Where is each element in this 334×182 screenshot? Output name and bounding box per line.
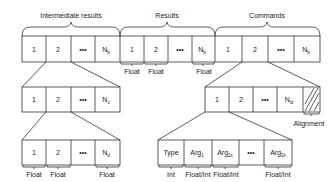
cell-label: 2 — [154, 46, 158, 53]
cell-label-type: Type — [163, 149, 178, 157]
cell-label-n: Nd — [102, 149, 110, 158]
type-label: Float — [124, 68, 140, 75]
ellipsis-dots: ••• — [79, 96, 87, 103]
cell-label: 1 — [32, 96, 36, 103]
type-label: Float — [26, 171, 42, 178]
cell-label: 1 — [226, 46, 230, 53]
brace-results — [120, 22, 215, 36]
type-label: Int — [167, 171, 175, 178]
cell-label-n: Nb — [102, 46, 110, 55]
cell-label: 2 — [239, 96, 243, 103]
type-label: Float — [196, 68, 212, 75]
ellipsis-dots: ••• — [79, 46, 87, 53]
cell-label: 1 — [32, 46, 36, 53]
type-label: Float/Int — [265, 171, 290, 178]
cell-label: 1 — [130, 46, 134, 53]
intermediate-results-title: Intermediate results — [40, 12, 102, 19]
data-layout-diagram: Intermediate results Results Commands 1 … — [0, 0, 334, 182]
cell-label-n: Nb — [302, 46, 310, 55]
cell-label: 1 — [32, 149, 36, 156]
ellipsis-dots: ••• — [247, 149, 255, 156]
cell-label-n: Nid — [285, 96, 294, 105]
cell-label-arg: Arg2x — [217, 149, 233, 158]
cell-label: 1 — [215, 96, 219, 103]
ellipsis-dots: ••• — [277, 46, 285, 53]
alignment-label: Alignment — [293, 120, 324, 128]
results-title: Results — [155, 12, 179, 19]
type-label: Float/Int — [213, 171, 238, 178]
type-label: Float — [148, 68, 164, 75]
commands-title: Commands — [249, 12, 285, 19]
cell-label: 2 — [56, 46, 60, 53]
alignment-padding-cell — [305, 88, 319, 111]
cell-label: 2 — [253, 46, 257, 53]
cell-label: 2 — [56, 149, 60, 156]
type-label: Float/Int — [185, 171, 210, 178]
cell-label: 2 — [56, 96, 60, 103]
brace-commands — [215, 22, 320, 36]
cell-label-n: Nc — [102, 96, 110, 105]
cell-label-arg: Arg3x — [270, 149, 286, 158]
ellipsis-dots: ••• — [79, 149, 87, 156]
type-label: Float — [99, 171, 115, 178]
ellipsis-dots: ••• — [176, 46, 184, 53]
type-label: Float — [50, 171, 66, 178]
brace-intermediate — [22, 22, 120, 36]
ellipsis-dots: ••• — [261, 96, 269, 103]
cell-label-n: Nb — [198, 46, 206, 55]
cell-label-arg: Arg1 — [190, 149, 204, 158]
